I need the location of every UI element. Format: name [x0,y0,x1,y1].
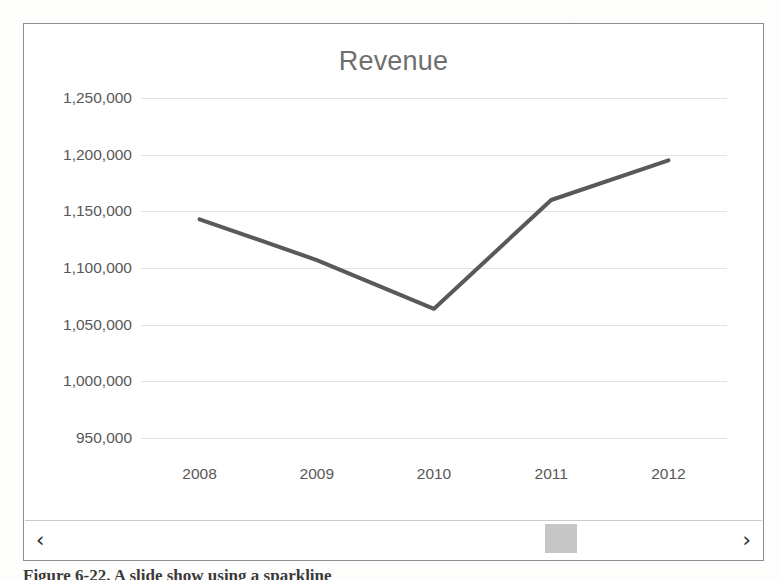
chart-scrollbar[interactable]: ‹ › [25,520,762,559]
y-axis-tick-label: 1,200,000 [63,146,132,164]
y-axis-tick-label: 1,100,000 [63,259,132,277]
y-axis-tick-label: 1,050,000 [63,316,132,334]
chevron-right-icon[interactable]: › [743,530,751,551]
x-axis-tick-label: 2010 [417,465,451,483]
y-axis-tick-label: 950,000 [76,429,132,447]
x-axis-tick-label: 2011 [535,465,568,483]
revenue-line-series [141,98,727,438]
y-axis-tick-label: 1,250,000 [63,89,132,107]
y-axis-tick-label: 1,150,000 [63,202,132,220]
plot-area [141,98,727,438]
series-line-revenue [200,160,669,308]
scrollbar-track[interactable] [55,521,732,559]
x-axis-tick-label: 2012 [651,465,685,483]
figure-caption: Figure 6-22. A slide show using a sparkl… [23,566,332,580]
y-axis-tick-labels: 1,250,0001,200,0001,150,0001,100,0001,05… [64,98,132,438]
scrollbar-thumb[interactable] [545,524,577,553]
chart-title: Revenue [24,46,763,77]
x-axis-tick-label: 2008 [182,465,216,483]
x-axis-tick-labels: 20082009201020112012 [141,465,727,491]
x-axis-tick-label: 2009 [300,465,334,483]
y-axis-tick-label: 1,000,000 [63,372,132,390]
chart-object-frame[interactable]: Revenue 1,250,0001,200,0001,150,0001,100… [23,23,764,561]
chevron-left-icon[interactable]: ‹ [36,530,44,551]
gridline [141,438,727,439]
